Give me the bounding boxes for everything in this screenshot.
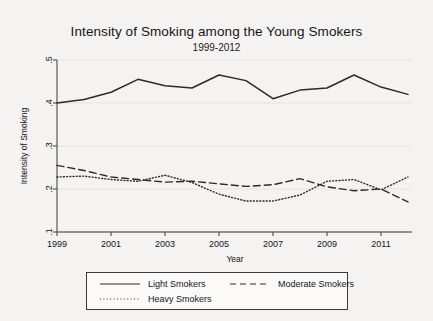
legend-swatch-dashed xyxy=(229,279,271,289)
legend-label-moderate: Moderate Smokers xyxy=(278,279,354,289)
x-tick-label: 2005 xyxy=(209,239,229,249)
x-tick-label: 1999 xyxy=(47,239,67,249)
x-tick-label: 2003 xyxy=(155,239,175,249)
series-line-light-smokers xyxy=(57,75,408,103)
chart-figure: Intensity of Smoking among the Young Smo… xyxy=(0,0,433,321)
x-axis-ticks: 1999200120032005200720092011 xyxy=(47,232,391,249)
legend-swatch-dotted xyxy=(99,294,141,304)
legend-label-light: Light Smokers xyxy=(148,279,206,289)
legend-label-heavy: Heavy Smokers xyxy=(148,294,212,304)
x-tick-label: 2007 xyxy=(263,239,283,249)
legend-swatch-solid xyxy=(99,279,141,289)
y-axis-ticks: .1.2.3.4.5 xyxy=(44,56,57,236)
x-tick-label: 2011 xyxy=(371,239,390,249)
legend-item-moderate: Moderate Smokers xyxy=(229,279,354,289)
y-tick-label: .1 xyxy=(44,228,54,236)
y-tick-label: .4 xyxy=(44,99,54,107)
legend-item-heavy: Heavy Smokers xyxy=(99,294,212,304)
series-lines xyxy=(57,75,408,202)
series-line-moderate-smokers xyxy=(57,165,408,202)
x-axis-title: Year xyxy=(226,254,243,264)
x-tick-label: 2009 xyxy=(317,239,337,249)
legend-item-light: Light Smokers xyxy=(99,279,206,289)
y-axis-title: Intensity of Smoking xyxy=(19,107,29,184)
gridlines xyxy=(57,60,412,232)
y-tick-label: .5 xyxy=(44,56,54,64)
series-line-heavy-smokers xyxy=(57,175,408,201)
y-tick-label: .3 xyxy=(44,142,54,150)
chart-legend: Light Smokers Moderate Smokers Heavy Smo… xyxy=(86,272,348,310)
x-tick-label: 2001 xyxy=(101,239,121,249)
y-tick-label: .2 xyxy=(44,185,54,193)
